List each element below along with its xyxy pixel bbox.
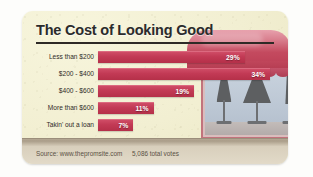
bar-value-label: 29% bbox=[226, 54, 245, 61]
bar-value-label: 34% bbox=[251, 71, 270, 78]
bar-segment: 29% bbox=[98, 51, 245, 63]
bar-segment: 19% bbox=[98, 85, 194, 97]
bar-value-label: 11% bbox=[135, 105, 153, 112]
bar-segment: 7% bbox=[98, 119, 133, 131]
bar-category-label: Less than $200 bbox=[30, 51, 94, 62]
bar-value-label: 19% bbox=[176, 88, 195, 95]
bar-category-label: Takin' out a loan bbox=[30, 119, 94, 130]
votes-text: 5,086 total votes bbox=[132, 150, 179, 157]
bar-category-label: More than $600 bbox=[30, 102, 94, 113]
infographic-card: The Cost of Looking Good Less than $2002… bbox=[22, 11, 288, 164]
title-underline bbox=[36, 42, 274, 44]
bar-category-label: $400 - $600 bbox=[30, 85, 94, 96]
bar-value-label: 7% bbox=[119, 122, 134, 129]
bar-chart: Less than $20029%$200 - $40034%$400 - $6… bbox=[22, 49, 288, 135]
bar-category-label: $200 - $400 bbox=[30, 68, 94, 79]
footer-band: Source: www.thepromsite.com 5,086 total … bbox=[22, 138, 288, 164]
source-text: Source: www.thepromsite.com bbox=[36, 150, 122, 157]
bar-segment: 11% bbox=[98, 102, 154, 114]
page-title: The Cost of Looking Good bbox=[36, 22, 213, 38]
bar-segment: 34% bbox=[98, 68, 270, 80]
infographic-stage: The Cost of Looking Good Less than $2002… bbox=[0, 0, 313, 177]
